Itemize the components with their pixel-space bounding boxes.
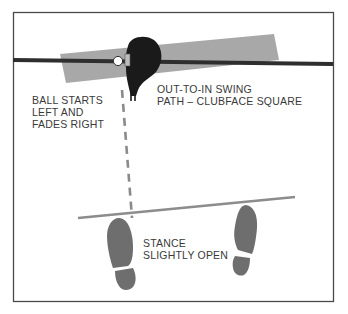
stance-label: STANCE SLIGHTLY OPEN: [143, 237, 228, 261]
stance-line: [78, 197, 295, 218]
left-foot-heel: [115, 268, 136, 290]
clubface: [125, 54, 130, 66]
right-foot-heel: [233, 256, 250, 276]
ball-flight-label-line-3: FADES RIGHT: [32, 118, 104, 130]
right-foot-sole: [234, 205, 257, 254]
ball-flight-label: BALL STARTS LEFT AND FADES RIGHT: [32, 94, 104, 130]
swing-path-band: [60, 34, 279, 83]
golf-diagram: BALL STARTS LEFT AND FADES RIGHT OUT-TO-…: [0, 0, 348, 314]
ball-flight-dashed-line: [122, 90, 132, 218]
swing-path-label: OUT-TO-IN SWING PATH – CLUBFACE SQUARE: [157, 83, 302, 107]
swing-path-label-line-2: PATH – CLUBFACE SQUARE: [157, 95, 302, 107]
stance-label-line-1: STANCE: [143, 237, 228, 249]
right-footprint: [233, 205, 258, 276]
target-line: [13, 60, 333, 64]
ball-flight-label-line-1: BALL STARTS: [32, 94, 104, 106]
stance-label-line-2: SLIGHTLY OPEN: [143, 249, 228, 261]
ball-flight-label-line-2: LEFT AND: [32, 106, 104, 118]
swing-path-label-line-1: OUT-TO-IN SWING: [157, 83, 302, 95]
golf-ball: [113, 56, 122, 65]
diagram-canvas: [0, 0, 348, 314]
left-footprint: [107, 218, 136, 290]
left-foot-sole: [107, 218, 133, 268]
